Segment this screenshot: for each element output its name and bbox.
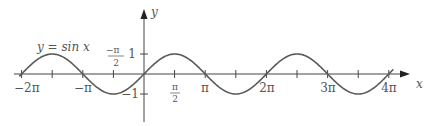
y-axis-arrow-icon bbox=[141, 9, 148, 19]
y-axis-label: y bbox=[150, 5, 158, 19]
y-tick-label-neg-1: −1 bbox=[121, 87, 139, 101]
tick-label-neg-pi: −π bbox=[74, 81, 92, 95]
x-axis-label: x bbox=[416, 77, 423, 91]
y-tick-label-1: 1 bbox=[128, 47, 136, 61]
sine-graph: y = sin x x y −2π −π −π 2 π 2 π 2π 3π 4π… bbox=[0, 0, 432, 126]
tick-label-3pi: 3π bbox=[320, 81, 336, 95]
tick-label-pi: π bbox=[201, 81, 209, 95]
tick-label-half-pi-num: π bbox=[172, 82, 178, 92]
x-axis-arrow-icon bbox=[400, 71, 410, 78]
tick-label-4pi: 4π bbox=[381, 81, 397, 95]
tick-label-neg-half-pi-num: −π bbox=[106, 45, 120, 55]
tick-label-neg-2pi: −2π bbox=[14, 81, 40, 95]
tick-label-2pi: 2π bbox=[259, 81, 275, 95]
plot-area: y = sin x x y −2π −π −π 2 π 2 π 2π 3π 4π… bbox=[0, 0, 432, 126]
tick-label-neg-half-pi-den: 2 bbox=[113, 58, 119, 68]
function-label: y = sin x bbox=[36, 40, 90, 54]
tick-label-half-pi-den: 2 bbox=[172, 94, 178, 104]
